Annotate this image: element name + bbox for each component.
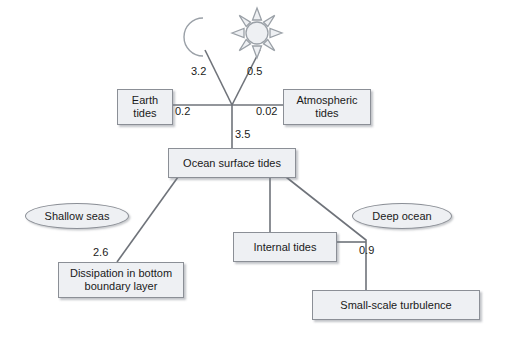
edge-label-ocean-value: 3.5 [235, 128, 250, 140]
node-ocean-surface-tides[interactable]: Ocean surface tides [168, 148, 296, 178]
node-deep-ocean-label: Deep ocean [372, 210, 431, 223]
moon-icon [184, 18, 203, 56]
node-atmospheric-tides-line2: tides [315, 107, 338, 119]
edge-label-earth-value: 0.2 [175, 105, 190, 117]
node-shallow-seas[interactable]: Shallow seas [25, 203, 129, 229]
edge-label-dissipation-value: 2.6 [93, 246, 108, 258]
edge-label-moon-value: 3.2 [191, 65, 206, 77]
edge-sun-to-hub [232, 50, 260, 105]
edge-label-sun-value: 0.5 [247, 65, 262, 77]
node-ocean-surface-tides-label: Ocean surface tides [183, 157, 281, 170]
node-shallow-seas-label: Shallow seas [45, 210, 110, 223]
node-dissipation-label: Dissipation in bottom boundary layer [70, 267, 172, 293]
node-earth-tides-line2: tides [133, 107, 156, 119]
node-small-scale-turbulence-label: Small-scale turbulence [340, 299, 451, 312]
node-atmospheric-tides[interactable]: Atmospheric tides [283, 89, 371, 125]
node-atmospheric-tides-line1: Atmospheric [296, 94, 357, 106]
diagram-canvas: Earth tides Atmospheric tides Ocean surf… [0, 0, 507, 346]
node-dissipation-bottom-boundary-layer[interactable]: Dissipation in bottom boundary layer [58, 262, 184, 298]
node-internal-tides-label: Internal tides [254, 241, 317, 254]
node-earth-tides-line1: Earth [132, 94, 158, 106]
node-earth-tides[interactable]: Earth tides [117, 89, 173, 125]
node-small-scale-turbulence[interactable]: Small-scale turbulence [312, 290, 480, 320]
edge-label-atmospheric-value: 0.02 [256, 105, 277, 117]
node-atmospheric-tides-label: Atmospheric tides [296, 94, 357, 120]
edge-label-turbulence-value: 0.9 [359, 244, 374, 256]
node-dissipation-line1: Dissipation in bottom [70, 267, 172, 279]
node-deep-ocean[interactable]: Deep ocean [352, 203, 452, 229]
edge-moon-to-hub [205, 50, 232, 105]
node-dissipation-line2: boundary layer [85, 280, 158, 292]
node-internal-tides[interactable]: Internal tides [233, 232, 337, 262]
node-earth-tides-label: Earth tides [132, 94, 158, 120]
sun-icon [232, 8, 282, 58]
